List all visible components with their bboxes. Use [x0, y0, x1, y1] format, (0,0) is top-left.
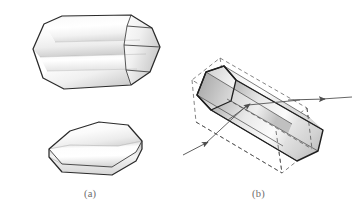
exit-ray-tail — [322, 97, 352, 99]
caption-panel-b: (b) — [252, 188, 265, 199]
figure-root: (a) (b) — [0, 0, 364, 217]
prism-a-end-cap — [124, 15, 160, 85]
exit-ray — [288, 99, 325, 100]
caption-panel-a: (a) — [84, 188, 96, 199]
panel-a-prism-oblique — [33, 15, 160, 89]
panel-a-prism-end-on — [49, 122, 142, 175]
panel-b-assembly — [183, 58, 352, 173]
figure-canvas — [0, 0, 364, 217]
incident-ray — [183, 142, 208, 155]
prism-b-inscribed — [197, 66, 323, 161]
